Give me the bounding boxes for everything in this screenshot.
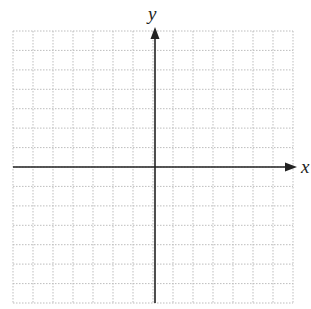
x-axis-arrow-icon: [285, 163, 297, 172]
y-axis-label: y: [146, 3, 157, 24]
y-axis-arrow-icon: [151, 27, 160, 39]
x-axis-label: x: [300, 156, 310, 177]
coordinate-plane: x y: [0, 0, 311, 309]
